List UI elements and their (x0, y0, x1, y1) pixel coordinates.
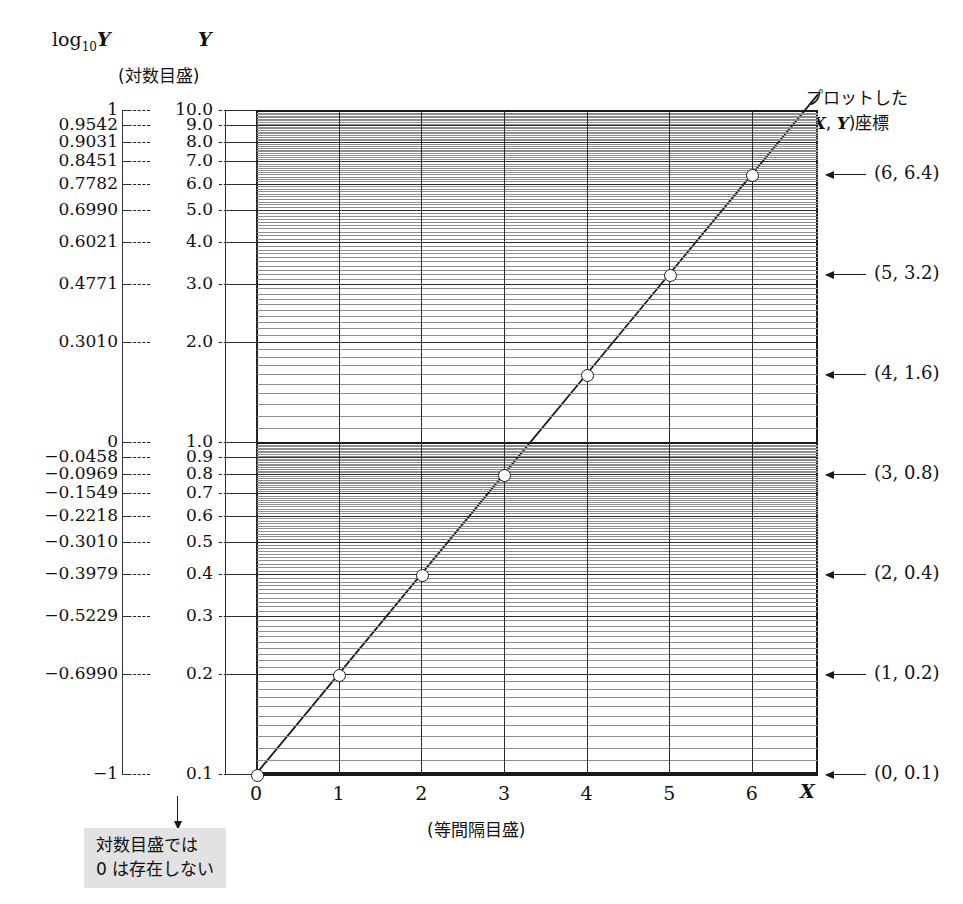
gridline-horizontal (256, 164, 818, 165)
x-axis-tick-label: 5 (649, 782, 689, 804)
log-value-label: −1 (18, 763, 118, 783)
gridline-horizontal (256, 697, 818, 698)
log-value-label: −0.3979 (18, 563, 118, 583)
annotation-arrow-icon (826, 574, 866, 575)
gridline-horizontal (256, 531, 818, 532)
gridline-horizontal (256, 457, 818, 458)
gridline-horizontal (256, 574, 818, 575)
y-axis-header: Y (198, 28, 212, 50)
data-point-marker[interactable] (416, 569, 429, 582)
y-value-label: 4.0 (155, 231, 213, 251)
bracket-tick (122, 210, 131, 211)
gridline-horizontal (256, 322, 818, 323)
gridline-horizontal (256, 660, 818, 661)
bracket-tick (122, 457, 131, 458)
gridline-horizontal (256, 482, 818, 483)
bracket-tick (122, 284, 131, 285)
log-value-label: −0.5229 (18, 605, 118, 625)
gridline-horizontal (256, 274, 818, 275)
gridline-horizontal (256, 626, 818, 627)
data-point-marker[interactable] (664, 269, 677, 282)
gridline-horizontal (256, 114, 818, 115)
gridline-horizontal (256, 202, 818, 203)
gridline-horizontal (256, 257, 818, 258)
axis-tick (225, 161, 256, 162)
gridline-horizontal (256, 471, 818, 472)
gridline-horizontal (256, 266, 818, 267)
gridline-horizontal (256, 357, 818, 358)
gridline-horizontal (256, 150, 818, 151)
gridline-horizontal (256, 110, 818, 112)
gridline-horizontal (256, 157, 818, 158)
y-value-label: 3.0 (155, 273, 213, 293)
gridline-horizontal (256, 261, 818, 262)
axis-tick (225, 284, 256, 285)
gridline-horizontal (256, 270, 818, 271)
gridline-horizontal (256, 451, 818, 452)
log-value-label: 0.9031 (18, 131, 118, 151)
gridline-horizontal (256, 442, 818, 444)
gridline-vertical (256, 110, 257, 774)
bracket-tick (122, 161, 131, 162)
annotation-arrow-icon (826, 274, 866, 275)
bracket-tick (122, 184, 131, 185)
gridline-horizontal (256, 130, 818, 131)
gridline-horizontal (256, 219, 818, 220)
data-point-marker[interactable] (581, 369, 594, 382)
data-point-marker[interactable] (333, 669, 346, 682)
plot-area[interactable] (256, 110, 818, 774)
log-value-label: 0.7782 (18, 173, 118, 193)
axis-tick (225, 184, 256, 185)
note-line-2: 0 は存在しない (96, 857, 214, 881)
y-value-label: 0.3 (155, 605, 213, 625)
annotation-arrow-icon (826, 474, 866, 475)
gridline-horizontal (256, 774, 818, 776)
gridline-horizontal (256, 736, 818, 737)
gridline-horizontal (256, 191, 818, 192)
y-value-label: 7.0 (155, 150, 213, 170)
gridline-horizontal (256, 446, 818, 447)
gridline-horizontal (256, 153, 818, 154)
point-annotation-label: (0, 0.1) (874, 762, 940, 783)
gridline-horizontal (256, 128, 818, 129)
coord-suffix: )座標 (849, 113, 890, 133)
axis-tick (225, 474, 256, 475)
x-axis-tick-label: 3 (484, 782, 524, 804)
log-value-label: 0.8451 (18, 150, 118, 170)
gridline-horizontal (256, 598, 818, 599)
gridline-horizontal (256, 536, 818, 537)
bracket-tick (122, 674, 131, 675)
gridline-horizontal (256, 518, 818, 519)
axis-tick (225, 342, 256, 343)
comma: , (826, 113, 837, 133)
gridline-horizontal (256, 335, 818, 336)
annotation-arrow-icon (826, 674, 866, 675)
gridline-horizontal (256, 582, 818, 583)
log-axis-header: log10Y (52, 28, 111, 54)
axis-tick (225, 516, 256, 517)
gridline-horizontal (256, 469, 818, 470)
y-value-label: 0.8 (155, 463, 213, 483)
gridline-horizontal (256, 564, 818, 565)
gridline-horizontal (256, 589, 818, 590)
gridline-horizontal (256, 116, 818, 117)
bracket-tick (122, 616, 131, 617)
gridline-horizontal (256, 122, 818, 123)
gridline-horizontal (256, 179, 818, 180)
gridline-horizontal (256, 504, 818, 505)
gridline-horizontal (256, 139, 818, 140)
gridline-horizontal (256, 689, 818, 690)
gridline-horizontal (256, 542, 818, 543)
axis-tick (225, 616, 256, 617)
y-value-label: 0.5 (155, 531, 213, 551)
gridline-horizontal (256, 467, 818, 468)
point-annotation-label: (1, 0.2) (874, 662, 940, 683)
log-value-label: 0.6021 (18, 231, 118, 251)
gridline-horizontal (256, 706, 818, 707)
gridline-horizontal (256, 349, 818, 350)
gridline-horizontal (256, 310, 818, 311)
gridline-horizontal (256, 250, 818, 251)
bracket-tick (122, 542, 131, 543)
data-point-marker[interactable] (251, 769, 264, 782)
x-axis-tick-label: 6 (732, 782, 772, 804)
